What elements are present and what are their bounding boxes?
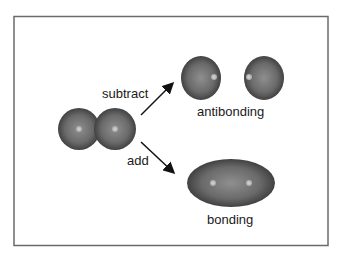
bonding-lobe — [187, 159, 275, 207]
bonding-label: bonding — [207, 212, 253, 227]
subtract-label: subtract — [102, 86, 149, 101]
orbital-diagram: subtract add antibonding bonding — [0, 0, 341, 268]
antibonding-nucleus-left — [211, 74, 217, 80]
bonding-orbital — [187, 159, 275, 207]
bonding-nucleus-left — [210, 180, 216, 186]
add-label: add — [127, 153, 149, 168]
nucleus-left — [76, 126, 82, 132]
antibonding-label: antibonding — [197, 104, 264, 119]
bonding-nucleus-right — [246, 180, 252, 186]
nucleus-right — [112, 126, 118, 132]
antibonding-nucleus-right — [246, 74, 252, 80]
